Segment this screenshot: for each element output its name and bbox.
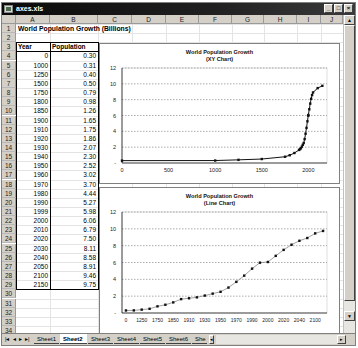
row-header-25[interactable]: 25: [2, 244, 16, 253]
data-point-marker: [188, 297, 190, 299]
row-header-7[interactable]: 7: [2, 79, 16, 88]
row-header-14[interactable]: 14: [2, 143, 16, 152]
column-header-b[interactable]: B: [50, 15, 98, 24]
row-header-23[interactable]: 23: [2, 225, 16, 234]
row-header-5[interactable]: 5: [2, 61, 16, 70]
column-header-g[interactable]: G: [232, 15, 264, 24]
data-point-marker: [141, 308, 143, 310]
column-header-d[interactable]: D: [132, 15, 166, 24]
sheet-title[interactable]: World Population Growth (Billions): [16, 24, 216, 33]
row-header-19[interactable]: 19: [2, 189, 16, 198]
spreadsheet-grid[interactable]: ABCDEFGHIJ123456789101112131415161718192…: [2, 15, 343, 333]
svg-text:2: 2: [113, 144, 116, 150]
row-header-4[interactable]: 4: [2, 51, 16, 60]
svg-text:12: 12: [110, 209, 116, 215]
row-header-13[interactable]: 13: [2, 134, 16, 143]
select-all-corner[interactable]: [2, 15, 16, 24]
svg-text:2000: 2000: [262, 317, 273, 323]
data-point-marker: [293, 152, 295, 154]
sheet-tab-sheet4[interactable]: Sheet4: [114, 334, 139, 344]
sheet-tab-sheet6[interactable]: Sheet6: [166, 334, 191, 344]
first-sheet-button[interactable]: |◂: [5, 336, 9, 342]
row-header-10[interactable]: 10: [2, 106, 16, 115]
next-sheet-button[interactable]: ▸: [19, 336, 22, 342]
column-header-i[interactable]: I: [297, 15, 321, 24]
scroll-down-button[interactable]: ▼: [344, 311, 355, 321]
svg-text:2: 2: [113, 293, 116, 299]
svg-text:6: 6: [113, 113, 116, 119]
sheet-tab-bar: |◂◂▸▸|Sheet1Sheet2Sheet3Sheet4Sheet5Shee…: [2, 333, 355, 345]
column-header-a[interactable]: A: [16, 15, 50, 24]
row-header-18[interactable]: 18: [2, 180, 16, 189]
sheet-tab-she[interactable]: She: [192, 334, 207, 344]
row-header-3[interactable]: 3: [2, 42, 16, 51]
svg-text:1850: 1850: [168, 317, 179, 323]
data-point-marker: [196, 296, 198, 298]
data-point-marker: [237, 159, 239, 161]
data-point-marker: [133, 309, 135, 311]
row-header-27[interactable]: 27: [2, 262, 16, 271]
vertical-scrollbar[interactable]: ▲ ▼: [343, 15, 355, 333]
prev-sheet-button[interactable]: ◂: [13, 336, 16, 342]
xy-chart[interactable]: World Population Growth(XY Chart)-246810…: [99, 43, 340, 184]
close-button[interactable]: ×: [344, 4, 353, 13]
tab-split-handle[interactable]: ◂: [209, 335, 214, 344]
scroll-right-button[interactable]: ▸: [337, 335, 346, 344]
row-header-12[interactable]: 12: [2, 125, 16, 134]
table-header-divider: [16, 51, 98, 52]
row-header-28[interactable]: 28: [2, 271, 16, 280]
data-point-marker: [214, 159, 216, 161]
minimize-button[interactable]: _: [324, 4, 333, 13]
excel-window: axes.xls _ □ × ABCDEFGHIJ123456789101112…: [1, 2, 356, 346]
sheet-tab-sheet2[interactable]: Sheet2: [60, 334, 87, 344]
row-header-22[interactable]: 22: [2, 216, 16, 225]
svg-text:1910: 1910: [183, 317, 194, 323]
row-header-2[interactable]: 2: [2, 33, 16, 42]
last-sheet-button[interactable]: ▸|: [25, 336, 29, 342]
row-header-31[interactable]: 31: [2, 299, 16, 308]
data-point-marker: [284, 156, 286, 158]
data-point-marker: [148, 308, 150, 310]
row-header-15[interactable]: 15: [2, 152, 16, 161]
gridline: [16, 33, 343, 34]
row-header-17[interactable]: 17: [2, 170, 16, 179]
row-header-32[interactable]: 32: [2, 308, 16, 317]
row-header-11[interactable]: 11: [2, 116, 16, 125]
line-chart[interactable]: World Population Growth(Line Chart)-2468…: [99, 187, 340, 333]
row-header-21[interactable]: 21: [2, 207, 16, 216]
row-header-1[interactable]: 1: [2, 24, 16, 33]
row-header-6[interactable]: 6: [2, 70, 16, 79]
row-header-26[interactable]: 26: [2, 253, 16, 262]
column-header-f[interactable]: F: [199, 15, 232, 24]
scroll-up-button[interactable]: ▲: [344, 15, 355, 25]
table-border: [16, 42, 99, 290]
row-header-29[interactable]: 29: [2, 280, 16, 289]
row-header-16[interactable]: 16: [2, 161, 16, 170]
chart-plot: -246810120500100015002000: [100, 44, 341, 185]
maximize-button[interactable]: □: [334, 4, 343, 13]
data-point-marker: [308, 108, 310, 110]
horizontal-scrollbar[interactable]: [216, 335, 337, 344]
data-point-marker: [290, 244, 292, 246]
svg-text:2040: 2040: [294, 317, 305, 323]
row-header-34[interactable]: 34: [2, 326, 16, 333]
column-header-e[interactable]: E: [166, 15, 199, 24]
data-point-marker: [282, 249, 284, 251]
svg-text:1000: 1000: [209, 167, 221, 173]
row-header-24[interactable]: 24: [2, 234, 16, 243]
row-header-20[interactable]: 20: [2, 198, 16, 207]
column-header-h[interactable]: H: [264, 15, 297, 24]
row-header-9[interactable]: 9: [2, 97, 16, 106]
row-header-33[interactable]: 33: [2, 317, 16, 326]
data-point-marker: [304, 133, 306, 135]
sheet-tab-sheet5[interactable]: Sheet5: [140, 334, 165, 344]
column-header-j[interactable]: J: [321, 15, 343, 24]
column-header-c[interactable]: C: [98, 15, 132, 24]
data-point-marker: [243, 274, 245, 276]
scroll-thumb[interactable]: [344, 25, 355, 301]
row-header-30[interactable]: 30: [2, 289, 16, 298]
row-header-8[interactable]: 8: [2, 88, 16, 97]
sheet-tab-sheet1[interactable]: Sheet1: [34, 334, 59, 344]
sheet-tab-sheet3[interactable]: Sheet3: [88, 334, 113, 344]
svg-text:1250: 1250: [136, 317, 147, 323]
